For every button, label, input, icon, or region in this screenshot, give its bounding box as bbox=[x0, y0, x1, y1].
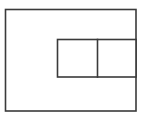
diagram-canvas: Nested rectangles diagram Outer rectangl… bbox=[0, 0, 144, 120]
rectangle-diagram bbox=[0, 0, 144, 120]
